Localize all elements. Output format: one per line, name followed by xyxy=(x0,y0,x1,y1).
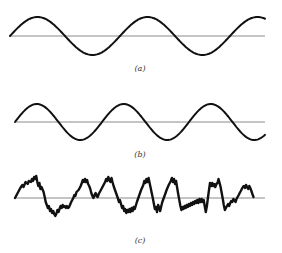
panel-c-label: (c) xyxy=(135,236,146,245)
waveform-figure: (a) (b) (c) xyxy=(0,0,282,253)
panel-c-noisy-wave xyxy=(15,176,254,216)
panel-b-label: (b) xyxy=(134,150,145,159)
panel-b: (b) xyxy=(15,104,265,159)
panel-a-label: (a) xyxy=(134,64,145,73)
panel-a: (a) xyxy=(10,17,265,73)
panel-c: (c) xyxy=(15,176,265,245)
